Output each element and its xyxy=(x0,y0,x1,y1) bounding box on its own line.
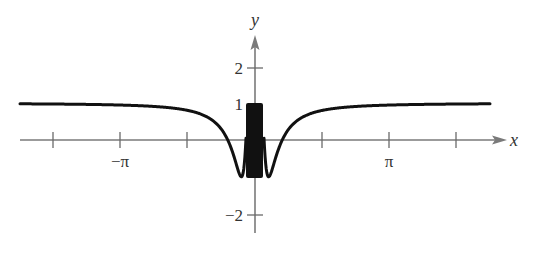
y-tick-label-1: 1 xyxy=(235,95,244,114)
x-tick-label-neg-pi: −π xyxy=(111,152,130,171)
x-axis-label: x xyxy=(509,130,518,150)
function-plot: −π π 2 1 −2 x y xyxy=(0,0,536,260)
y-tick-label-neg-2: −2 xyxy=(225,206,243,225)
x-tick-label-pi: π xyxy=(385,152,394,171)
y-tick-label-2: 2 xyxy=(235,59,244,78)
y-axis-label: y xyxy=(249,10,259,30)
oscillation-band xyxy=(246,103,263,178)
